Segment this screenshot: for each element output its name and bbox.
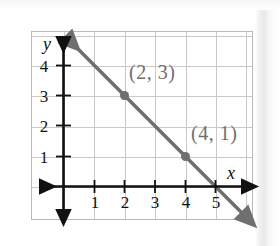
y-tick-label-3: 3: [34, 88, 54, 105]
x-tick-label-4: 4: [176, 194, 196, 211]
point-label-4-1: (4, 1): [191, 123, 237, 143]
x-axis-label: x: [227, 164, 235, 182]
y-axis-label: y: [43, 35, 51, 53]
x-tick-label-2: 2: [115, 194, 135, 211]
x-tick-label-3: 3: [145, 194, 165, 211]
point-label-2-3: (2, 3): [129, 62, 175, 82]
data-point-4-1: [181, 152, 190, 161]
x-tick-label-1: 1: [85, 194, 105, 211]
figure-page: (2, 3) (4, 1) y x 4 3 2 1 1 2 3 4 5: [0, 0, 280, 246]
y-tick-label-4: 4: [34, 58, 54, 75]
x-tick-label-5: 5: [206, 194, 226, 211]
y-tick-label-2: 2: [34, 118, 54, 135]
data-point-2-3: [120, 91, 129, 100]
y-tick-label-1: 1: [34, 149, 54, 166]
